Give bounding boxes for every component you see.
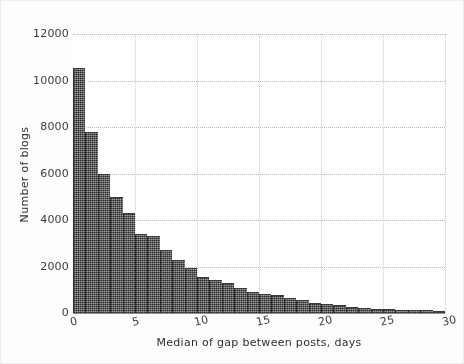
bar <box>408 310 420 313</box>
y-tick-label-2000: 2000 <box>40 260 69 273</box>
bar <box>222 283 234 313</box>
bar <box>135 234 147 314</box>
bar <box>197 277 209 313</box>
x-tick-label-10: 10 <box>193 313 209 329</box>
plot-area <box>73 34 445 313</box>
bar <box>172 260 184 313</box>
y-tick-label-4000: 4000 <box>40 213 69 226</box>
bar <box>309 303 321 313</box>
x-tick-label-0: 0 <box>69 315 79 329</box>
bar <box>333 305 345 313</box>
bar <box>123 213 135 313</box>
bar <box>395 310 407 313</box>
gridline-x-15 <box>259 34 260 313</box>
bar <box>284 298 296 313</box>
bar <box>73 68 85 313</box>
x-tick-label-30: 30 <box>441 313 457 329</box>
x-tick-label-20: 20 <box>317 313 333 329</box>
bar <box>271 295 283 313</box>
bar <box>383 309 395 313</box>
gridline-x-20 <box>321 34 322 313</box>
bar <box>185 268 197 313</box>
bar <box>160 250 172 313</box>
bar <box>147 236 159 313</box>
bar <box>98 174 110 314</box>
y-tick-label-6000: 6000 <box>40 167 69 180</box>
y-tick-label-0: 0 <box>62 306 69 319</box>
x-tick-label-5: 5 <box>131 315 141 329</box>
bar <box>85 132 97 313</box>
bar <box>209 280 221 313</box>
axis-right-spine <box>445 34 446 313</box>
chart-canvas: 020004000600080001000012000 051015202530… <box>0 0 464 364</box>
bar <box>321 304 333 313</box>
bar <box>346 307 358 313</box>
bar <box>358 308 370 313</box>
y-tick-label-12000: 12000 <box>33 27 69 40</box>
bar <box>296 300 308 313</box>
gridline-x-10 <box>197 34 198 313</box>
y-axis-tick-labels: 020004000600080001000012000 <box>0 0 69 364</box>
y-tick-label-10000: 10000 <box>33 74 69 87</box>
x-tick-label-15: 15 <box>255 313 271 329</box>
bar <box>371 309 383 313</box>
y-tick-label-8000: 8000 <box>40 120 69 133</box>
bar <box>247 292 259 313</box>
bar <box>259 294 271 313</box>
gridline-x-25 <box>383 34 384 313</box>
y-axis-title: Number of blogs <box>18 95 31 255</box>
bar <box>420 310 432 313</box>
bar <box>234 288 246 313</box>
x-tick-label-25: 25 <box>379 313 395 329</box>
bar <box>110 197 122 313</box>
bar <box>433 311 445 313</box>
x-axis-title: Median of gap between posts, days <box>73 336 445 349</box>
